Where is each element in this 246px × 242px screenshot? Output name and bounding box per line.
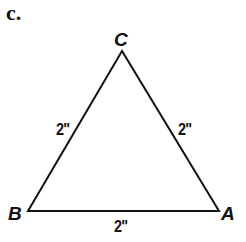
vertex-label-c: C (114, 30, 128, 49)
side-label-ca: 2" (178, 121, 191, 138)
side-label-bc: 2" (56, 121, 69, 138)
side-label-ba: 2" (114, 218, 127, 235)
vertex-label-b: B (8, 204, 22, 223)
vertex-label-a: A (221, 204, 235, 223)
